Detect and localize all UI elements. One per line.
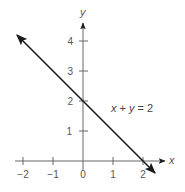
y-tick-label: 1 [66,126,72,137]
equation-label: x + y = 2 [110,102,153,114]
y-tick-label: 3 [67,66,73,77]
equation-rhs: = 2 [135,102,154,114]
y-tick-label: 2 [67,96,73,107]
x-tick-label: 1 [110,169,116,180]
y-tick-label: 4 [67,36,73,47]
x-tick-label: −1 [47,169,59,180]
equation-plus: + [117,102,130,114]
y-axis [79,23,88,170]
x-tick-label: 2 [140,169,146,180]
x-tick-label: 0 [80,169,86,180]
y-axis-label: y [79,6,87,18]
x-axis-label: x [168,154,175,166]
x-tick-label: −2 [17,169,29,180]
coordinate-plane: x y −2 −1 0 1 2 1 2 3 4 x + y = 2 [0,0,185,192]
